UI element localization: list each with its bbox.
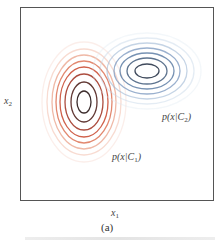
series-c1-contours xyxy=(42,42,126,162)
x-axis-label-sub: 1 xyxy=(115,212,119,220)
series-label-c2: p(x|C2) xyxy=(162,111,191,124)
contour-level xyxy=(93,33,201,109)
contour-level xyxy=(135,64,159,78)
c2-label-close: ) xyxy=(188,111,191,122)
series-label-c1: p(x|C1) xyxy=(112,151,141,164)
c1-label-close: ) xyxy=(138,151,141,162)
y-axis-label: x2 xyxy=(4,95,12,108)
c1-label-text: p(x|C xyxy=(112,151,134,162)
caption-illegible xyxy=(25,237,215,240)
contour-level xyxy=(114,48,180,94)
series-c2-contours xyxy=(93,33,201,109)
contour-level xyxy=(52,55,116,149)
x-axis-label: x1 xyxy=(111,207,119,220)
contour-level xyxy=(71,82,97,122)
panel-label: (a) xyxy=(101,221,113,233)
contour-level xyxy=(127,58,167,84)
contour-level xyxy=(77,91,91,113)
contour-level xyxy=(42,42,126,162)
contour-level xyxy=(107,43,187,99)
contour-level xyxy=(47,49,121,155)
c2-label-text: p(x|C xyxy=(162,111,184,122)
y-axis-label-sub: 2 xyxy=(8,100,12,108)
